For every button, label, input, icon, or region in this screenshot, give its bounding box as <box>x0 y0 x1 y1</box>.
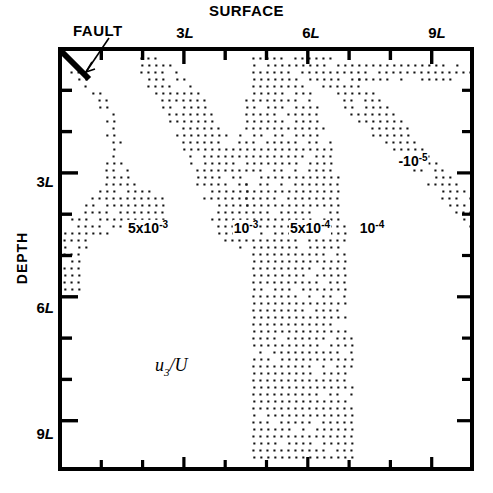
contour-label-1e-4: 10-4 <box>359 220 385 236</box>
contour-label-exponent: -4 <box>321 219 330 230</box>
contour-label-exponent: -5 <box>419 152 428 163</box>
contour-label-1e-5: -10-5 <box>397 153 428 169</box>
plot-canvas <box>0 0 493 493</box>
contour-label-1e-3: 10-3 <box>233 220 259 236</box>
depth-axis-title: DEPTH <box>14 218 30 298</box>
contour-label-mantissa: 5x10 <box>128 220 159 236</box>
contour-label-mantissa: 10 <box>234 220 250 236</box>
contour-label-exponent: -3 <box>249 219 258 230</box>
contour-label-exponent: -3 <box>159 219 168 230</box>
stipple-band <box>294 58 471 228</box>
stipple-bands-layer <box>64 58 472 459</box>
stipple-band <box>64 72 165 291</box>
xtick-label-6l: 6L <box>302 24 320 41</box>
contour-label-exponent: -4 <box>375 219 384 230</box>
xtick-label-9l: 9L <box>428 24 446 41</box>
contour-figure: SURFACE FAULT DEPTH 3L 6L 9L 3L 6L 9L 5x… <box>0 0 493 493</box>
stipple-band <box>344 65 471 81</box>
ytick-label-3l: 3L <box>22 173 54 190</box>
axis-ticks-layer <box>62 51 470 467</box>
contour-label-mantissa: 10 <box>360 220 376 236</box>
contour-label-5e-3: 5x10-3 <box>127 220 169 236</box>
plot-frame <box>60 49 472 469</box>
fault-label: FAULT <box>73 22 123 39</box>
surface-title: SURFACE <box>0 2 493 19</box>
fault-leader-arrow <box>86 38 109 72</box>
contour-label-mantissa: 10 <box>403 153 419 169</box>
stipple-band <box>238 58 353 459</box>
contour-label-5e-4: 5x10-4 <box>289 220 331 236</box>
fault-line <box>60 50 89 79</box>
ytick-label-6l: 6L <box>22 299 54 316</box>
field-quantity-symbol: u3/U <box>155 355 188 378</box>
contour-label-mantissa: 5x10 <box>290 220 321 236</box>
xtick-label-3l: 3L <box>176 24 194 41</box>
ytick-label-9l: 9L <box>22 425 54 442</box>
